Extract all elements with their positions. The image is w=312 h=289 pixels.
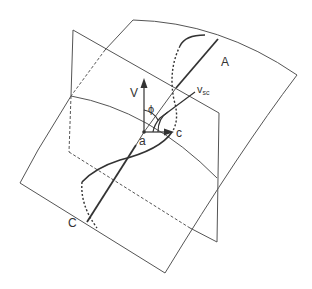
label-vsc: vsc — [197, 83, 210, 96]
label-V: V — [130, 86, 138, 100]
tilted-plane-left-edge-visible — [105, 20, 133, 50]
upright-plane-left-hidden — [69, 96, 71, 152]
v-arrowhead-icon — [141, 78, 148, 88]
tilted-plane-top-edge — [133, 20, 297, 75]
upright-plane-right-edge — [217, 113, 219, 242]
label-phi: ϕ — [148, 103, 154, 115]
diagram-canvas: A C V ϕ a c vsc — [0, 0, 312, 289]
s-curve-lower-dotted — [82, 182, 97, 228]
lower-left-edge — [20, 150, 165, 273]
label-C: C — [68, 216, 77, 230]
c-arrowhead-icon — [164, 129, 174, 136]
label-A: A — [221, 55, 229, 69]
label-c: c — [176, 126, 182, 140]
upright-plane-top-edge — [73, 30, 219, 113]
tilted-plane-left-edge-hidden — [71, 50, 105, 96]
upright-plane-left-edge — [71, 30, 73, 96]
upright-plane-bottom-hidden — [69, 152, 190, 228]
vsc-arc — [158, 112, 168, 132]
s-curve-mid-solid — [82, 132, 172, 182]
s-curve-top-solid — [180, 35, 205, 46]
tilted-plane-right-edge — [165, 75, 297, 273]
upright-plane-bottom-edge — [190, 228, 217, 242]
line-A-upper — [176, 39, 218, 88]
tilted-plane-left-edge-lower — [38, 96, 71, 150]
line-lower — [87, 145, 136, 222]
label-a: a — [139, 134, 146, 148]
